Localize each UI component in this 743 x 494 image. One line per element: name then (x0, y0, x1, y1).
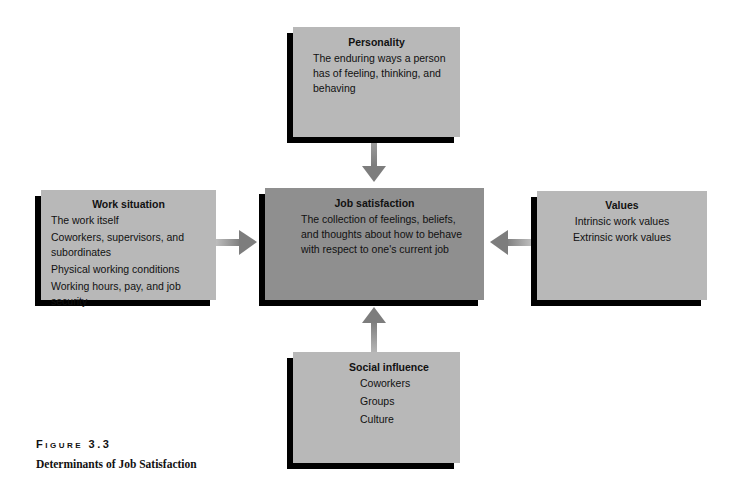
personality-description: The enduring ways a person has of feelin… (293, 51, 460, 96)
job-satisfaction-title: Job satisfaction (265, 196, 484, 211)
social-influence-title: Social influence (293, 360, 460, 375)
list-item: Coworkers (360, 376, 460, 391)
values-title: Values (537, 198, 707, 213)
list-item: The work itself (51, 213, 216, 228)
list-item: Physical working conditions (51, 262, 216, 277)
social-influence-box: Social influence Coworkers Groups Cultur… (293, 352, 460, 463)
arrow-up-icon (362, 307, 386, 352)
list-item: Groups (360, 394, 460, 409)
personality-box: Personality The enduring ways a person h… (293, 27, 460, 137)
arrow-down-icon (362, 143, 386, 182)
list-item: Working hours, pay, and job security (51, 279, 216, 309)
work-situation-title: Work situation (41, 197, 216, 212)
list-item: Intrinsic work values (537, 214, 707, 229)
list-item: Extrinsic work values (537, 230, 707, 245)
figure-title: Determinants of Job Satisfaction (36, 458, 197, 470)
figure-label: Figure 3.3 (36, 438, 197, 450)
personality-title: Personality (293, 35, 460, 50)
arrow-right-icon (216, 230, 257, 255)
list-item: Culture (360, 412, 460, 427)
social-influence-list: Coworkers Groups Culture (293, 376, 460, 427)
list-item: Coworkers, supervisors, and subordinates (51, 230, 216, 260)
job-satisfaction-box: Job satisfaction The collection of feeli… (265, 188, 484, 300)
work-situation-list: The work itself Coworkers, supervisors, … (41, 213, 216, 309)
values-list: Intrinsic work values Extrinsic work val… (537, 214, 707, 245)
work-situation-box: Work situation The work itself Coworkers… (41, 190, 216, 300)
figure-caption: Figure 3.3 Determinants of Job Satisfact… (36, 438, 197, 470)
job-satisfaction-description: The collection of feelings, beliefs, and… (265, 212, 484, 257)
arrow-left-icon (490, 230, 531, 255)
values-box: Values Intrinsic work values Extrinsic w… (537, 191, 707, 300)
